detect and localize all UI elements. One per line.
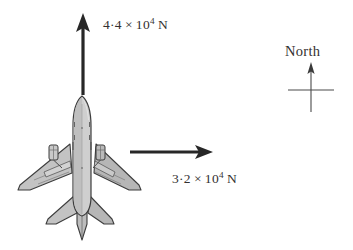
vertical-force-exponent: 4: [150, 16, 155, 26]
north-label: North: [285, 43, 320, 60]
horizontal-force-label: 3·2 × 104 N: [172, 171, 237, 187]
horizontal-force-unit: N: [227, 171, 237, 186]
vertical-force-base: 10: [136, 17, 150, 32]
horizontal-force-mantissa: 3·2: [172, 171, 191, 186]
horizontal-force-exponent: 4: [219, 170, 224, 180]
figure-canvas: 4·4 × 104 N 3·2 × 104 N North: [0, 0, 353, 250]
arrows-layer: [0, 0, 353, 250]
vertical-force-times: ×: [125, 17, 133, 32]
vertical-force-unit: N: [158, 17, 168, 32]
horizontal-force-base: 10: [205, 171, 219, 186]
compass-rose: [288, 62, 334, 112]
vertical-force-mantissa: 4·4: [103, 17, 122, 32]
upward-force-arrow: [76, 13, 90, 95]
rightward-force-arrow: [130, 145, 213, 159]
horizontal-force-times: ×: [194, 171, 202, 186]
vertical-force-label: 4·4 × 104 N: [103, 17, 168, 33]
